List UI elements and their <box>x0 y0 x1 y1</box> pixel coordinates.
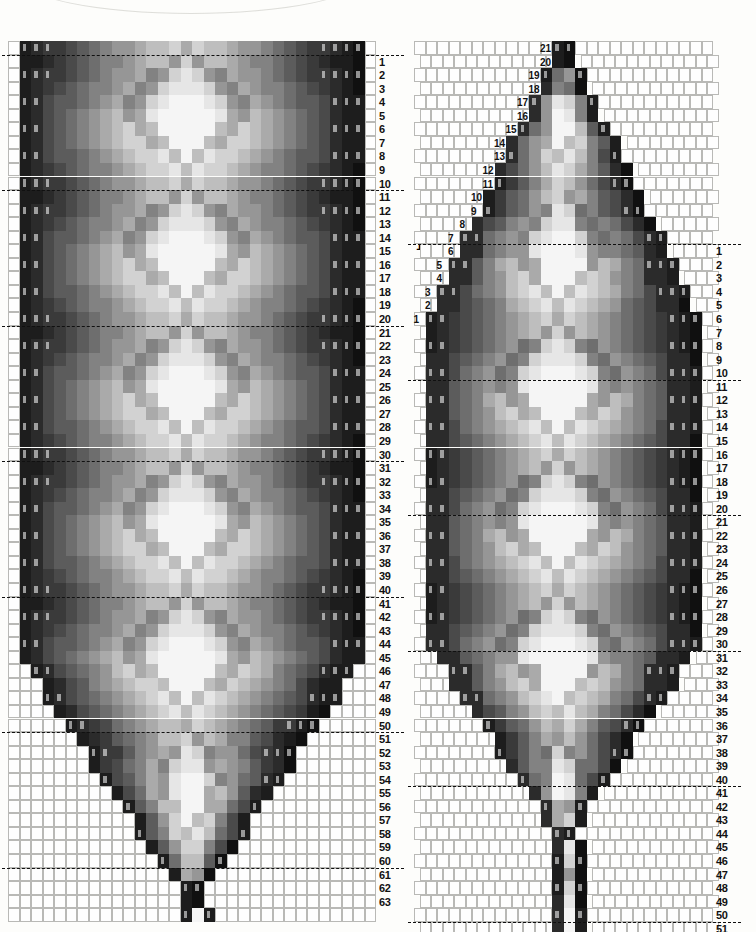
pattern-cell[interactable] <box>495 637 507 651</box>
pattern-cell[interactable] <box>112 475 124 489</box>
empty-grid-cell[interactable] <box>8 136 20 150</box>
pattern-cell[interactable] <box>307 624 319 638</box>
pattern-cell[interactable] <box>656 244 668 258</box>
pattern-cell[interactable] <box>181 488 193 502</box>
pattern-cell[interactable] <box>112 637 124 651</box>
pattern-cell[interactable] <box>541 285 553 299</box>
empty-grid-cell[interactable] <box>449 41 461 55</box>
pattern-cell[interactable] <box>644 380 656 394</box>
pattern-cell[interactable] <box>169 813 181 827</box>
pattern-cell[interactable] <box>598 691 610 705</box>
pattern-cell[interactable] <box>667 583 679 597</box>
pattern-cell[interactable] <box>575 786 587 800</box>
pattern-cell[interactable] <box>529 448 541 462</box>
empty-grid-cell[interactable] <box>673 55 685 69</box>
pattern-cell[interactable] <box>158 786 170 800</box>
pattern-cell[interactable] <box>215 109 227 123</box>
pattern-cell[interactable] <box>215 610 227 624</box>
empty-grid-cell[interactable] <box>667 908 679 922</box>
pattern-cell[interactable] <box>587 380 599 394</box>
pattern-cell[interactable] <box>296 624 308 638</box>
pattern-cell[interactable] <box>495 393 507 407</box>
pattern-cell[interactable] <box>204 122 216 136</box>
empty-grid-cell[interactable] <box>284 881 296 895</box>
pattern-cell[interactable] <box>100 420 112 434</box>
empty-grid-cell[interactable] <box>307 773 319 787</box>
pattern-cell[interactable] <box>483 326 495 340</box>
empty-grid-cell[interactable] <box>123 854 135 868</box>
empty-grid-cell[interactable] <box>437 95 449 109</box>
empty-grid-cell[interactable] <box>506 827 518 841</box>
pattern-cell[interactable] <box>181 556 193 570</box>
pattern-cell[interactable] <box>135 448 147 462</box>
pattern-cell[interactable] <box>552 407 564 421</box>
pattern-cell[interactable] <box>541 407 553 421</box>
pattern-cell[interactable] <box>679 597 691 611</box>
pattern-cell[interactable] <box>112 678 124 692</box>
pattern-cell[interactable] <box>330 136 342 150</box>
pattern-cell[interactable] <box>495 190 507 204</box>
pattern-cell[interactable] <box>112 610 124 624</box>
pattern-cell[interactable] <box>610 759 622 773</box>
pattern-cell[interactable] <box>598 529 610 543</box>
pattern-cell[interactable] <box>319 312 331 326</box>
pattern-cell[interactable] <box>227 177 239 191</box>
empty-grid-cell[interactable] <box>227 908 239 922</box>
pattern-cell[interactable] <box>644 339 656 353</box>
pattern-cell[interactable] <box>31 285 43 299</box>
pattern-cell[interactable] <box>495 732 507 746</box>
pattern-cell[interactable] <box>146 732 158 746</box>
pattern-cell[interactable] <box>135 502 147 516</box>
pattern-cell[interactable] <box>123 271 135 285</box>
empty-grid-cell[interactable] <box>638 82 650 96</box>
pattern-cell[interactable] <box>541 109 553 123</box>
empty-grid-cell[interactable] <box>627 109 639 123</box>
pattern-cell[interactable] <box>192 109 204 123</box>
pattern-cell[interactable] <box>192 556 204 570</box>
empty-grid-cell[interactable] <box>426 881 438 895</box>
pattern-cell[interactable] <box>330 664 342 678</box>
pattern-cell[interactable] <box>215 136 227 150</box>
pattern-cell[interactable] <box>54 651 66 665</box>
pattern-cell[interactable] <box>552 502 564 516</box>
empty-grid-cell[interactable] <box>89 895 101 909</box>
empty-grid-cell[interactable] <box>100 813 112 827</box>
pattern-cell[interactable] <box>575 420 587 434</box>
pattern-cell[interactable] <box>284 624 296 638</box>
pattern-cell[interactable] <box>273 326 285 340</box>
empty-grid-cell[interactable] <box>667 149 679 163</box>
pattern-cell[interactable] <box>66 488 78 502</box>
pattern-cell[interactable] <box>552 55 564 69</box>
pattern-cell[interactable] <box>77 624 89 638</box>
empty-grid-cell[interactable] <box>319 759 331 773</box>
empty-grid-cell[interactable] <box>460 854 472 868</box>
pattern-cell[interactable] <box>204 719 216 733</box>
pattern-cell[interactable] <box>449 448 461 462</box>
empty-grid-cell[interactable] <box>365 55 377 69</box>
pattern-cell[interactable] <box>89 515 101 529</box>
pattern-cell[interactable] <box>261 82 273 96</box>
pattern-cell[interactable] <box>564 651 576 665</box>
pattern-cell[interactable] <box>541 353 553 367</box>
pattern-cell[interactable] <box>284 475 296 489</box>
empty-grid-cell[interactable] <box>673 109 685 123</box>
empty-grid-cell[interactable] <box>20 840 32 854</box>
pattern-cell[interactable] <box>449 434 461 448</box>
pattern-cell[interactable] <box>552 908 564 922</box>
pattern-cell[interactable] <box>54 610 66 624</box>
pattern-cell[interactable] <box>679 298 691 312</box>
pattern-cell[interactable] <box>610 204 622 218</box>
pattern-cell[interactable] <box>227 597 239 611</box>
pattern-cell[interactable] <box>54 664 66 678</box>
pattern-cell[interactable] <box>77 149 89 163</box>
empty-grid-cell[interactable] <box>66 732 78 746</box>
empty-grid-cell[interactable] <box>644 68 656 82</box>
pattern-cell[interactable] <box>679 488 691 502</box>
empty-grid-cell[interactable] <box>437 800 449 814</box>
pattern-cell[interactable] <box>610 420 622 434</box>
pattern-cell[interactable] <box>644 502 656 516</box>
empty-grid-cell[interactable] <box>535 895 547 909</box>
empty-grid-cell[interactable] <box>238 840 250 854</box>
pattern-cell[interactable] <box>273 122 285 136</box>
pattern-cell[interactable] <box>135 705 147 719</box>
